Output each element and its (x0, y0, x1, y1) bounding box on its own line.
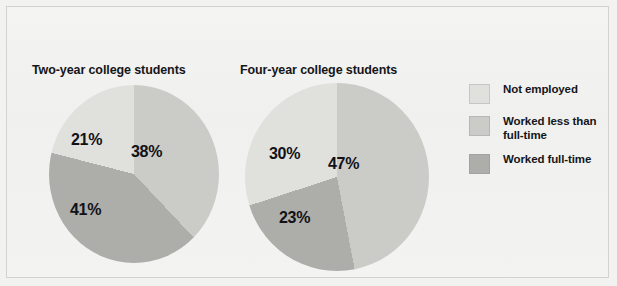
pie-slice-label-four-year-not-employed: 30% (269, 145, 300, 163)
chart-title-four-year: Four-year college students (240, 63, 397, 77)
pie-slice-label-two-year-not-employed: 21% (71, 131, 102, 149)
pie-chart-two-year (49, 85, 219, 263)
legend-item-worked-less-than-full-time: Worked less than full-time (469, 115, 617, 142)
legend-label-worked-full-time: Worked full-time (503, 153, 591, 167)
pie-slice-label-four-year-worked-full-time: 23% (279, 209, 310, 227)
pie-chart-four-year (245, 83, 429, 271)
legend-swatch-worked-full-time (469, 154, 490, 174)
pie-slice-label-two-year-worked-full-time: 41% (70, 201, 101, 219)
legend-label-not-employed: Not employed (503, 83, 578, 97)
figure-frame: Two-year college students 38% 41% 21% Fo… (6, 6, 609, 278)
pie-slice-label-four-year-worked-less-than-full-time: 47% (328, 155, 359, 173)
legend-item-not-employed: Not employed (469, 83, 617, 104)
legend-swatch-worked-less-than-full-time (469, 116, 490, 136)
legend: Not employed Worked less than full-time … (469, 83, 617, 185)
legend-label-worked-less-than-full-time: Worked less than full-time (503, 115, 617, 142)
pie-slice-label-two-year-worked-less-than-full-time: 38% (131, 143, 162, 161)
legend-swatch-not-employed (469, 84, 490, 104)
legend-item-worked-full-time: Worked full-time (469, 153, 617, 174)
chart-title-two-year: Two-year college students (32, 63, 186, 77)
